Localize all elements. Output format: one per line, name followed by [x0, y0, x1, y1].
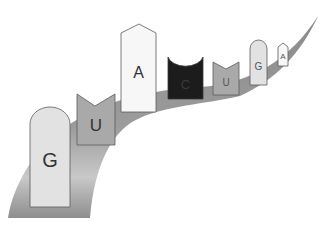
base-a-1: A: [121, 24, 156, 112]
base-letter: G: [255, 61, 263, 72]
base-letter: U: [222, 77, 229, 88]
rna-strand-diagram: G U A C U G A: [0, 0, 335, 230]
base-letter: G: [42, 149, 58, 171]
base-g-2: G: [250, 40, 267, 85]
base-letter: U: [90, 116, 102, 135]
base-c-1: C: [168, 57, 203, 99]
base-letter: A: [133, 64, 144, 81]
base-letter: C: [181, 77, 190, 92]
base-a-2: A: [278, 43, 288, 66]
base-u-2: U: [213, 62, 239, 95]
base-g-1: G: [30, 107, 70, 207]
base-letter: A: [280, 52, 286, 61]
base-u-1: U: [77, 94, 115, 145]
